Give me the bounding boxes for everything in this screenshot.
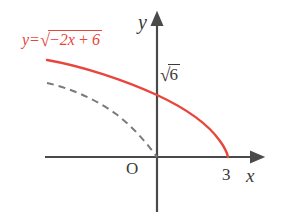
equation-radicand: −2x + 6 [48,30,102,48]
radicand-value: 6 [168,64,180,83]
y-axis-label: y [138,12,147,32]
x-axis-label: x [246,166,254,185]
dashed-reference-curve [47,83,157,157]
x-intercept-tick-label: 3 [222,166,231,183]
origin-label: O [126,160,138,177]
equation-label: y=√−2x + 6 [22,30,102,50]
y-intercept-label: √6 [160,64,180,84]
sqrt-symbol-group: √6 [160,64,180,84]
math-graph-figure: y x O 3 √6 y=√−2x + 6 [0,0,284,212]
equation-sqrt-group: √−2x + 6 [40,30,102,50]
equation-equals-sign: = [29,31,40,48]
main-curve [47,60,228,157]
